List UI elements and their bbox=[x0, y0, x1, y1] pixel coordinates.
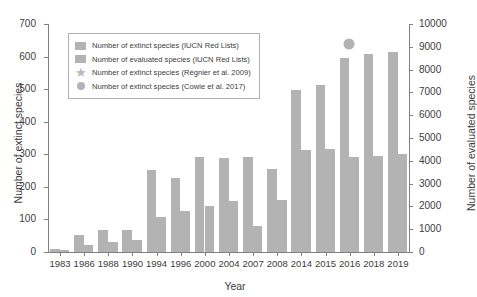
bar bbox=[156, 217, 166, 252]
y-axis-right-tick-label: 4000 bbox=[419, 155, 464, 166]
legend-label: Number of extinct species (Cowie et al. … bbox=[92, 82, 245, 91]
y-axis-right-tick-label: 1000 bbox=[419, 223, 464, 234]
y-axis-right-tick bbox=[409, 184, 413, 185]
y-axis-right-tick-label: 7000 bbox=[419, 86, 464, 97]
y-axis-right-tick-label: 6000 bbox=[419, 109, 464, 120]
x-axis-tick bbox=[350, 252, 351, 256]
y-axis-left-tick bbox=[44, 252, 48, 253]
y-axis-left-tick bbox=[44, 57, 48, 58]
bar bbox=[132, 240, 142, 252]
y-axis-right-tick bbox=[409, 138, 413, 139]
y-axis-right-title: Number of evaluated species bbox=[465, 58, 477, 228]
y-axis-right-tick bbox=[409, 206, 413, 207]
bar bbox=[171, 178, 181, 252]
y-axis-left-tick bbox=[44, 122, 48, 123]
x-axis-tick bbox=[253, 252, 254, 256]
bar bbox=[195, 157, 205, 252]
bar bbox=[398, 154, 408, 252]
legend-circle-icon bbox=[75, 82, 86, 90]
circle-marker bbox=[344, 39, 355, 50]
y-axis-right-tick-label: 10000 bbox=[419, 18, 464, 29]
bar bbox=[60, 250, 70, 253]
y-axis-left-tick bbox=[44, 89, 48, 90]
y-axis-right-tick bbox=[409, 161, 413, 162]
legend-label: Number of evaluated species (IUCN Red Li… bbox=[92, 55, 250, 64]
y-axis-left-tick bbox=[44, 24, 48, 25]
bar bbox=[122, 230, 132, 252]
bar bbox=[291, 90, 301, 252]
y-axis-left-tick bbox=[44, 187, 48, 188]
bar bbox=[229, 201, 239, 252]
x-axis-tick bbox=[205, 252, 206, 256]
bar bbox=[219, 158, 229, 252]
bar bbox=[301, 150, 311, 252]
bar bbox=[388, 52, 398, 252]
y-axis-left-tick-label: 700 bbox=[0, 18, 36, 29]
bar bbox=[349, 157, 359, 252]
bar bbox=[74, 235, 84, 252]
legend-square-icon bbox=[75, 55, 86, 63]
y-axis-left-tick-label: 300 bbox=[0, 148, 36, 159]
x-axis-tick-label: 2019 bbox=[378, 258, 418, 269]
y-axis-left-tick-label: 600 bbox=[0, 51, 36, 62]
legend-label: Number of extinct species (Régnier et al… bbox=[92, 68, 251, 77]
bar bbox=[243, 157, 253, 252]
bar bbox=[50, 249, 60, 252]
y-axis-right-tick bbox=[409, 70, 413, 71]
y-axis-right-tick bbox=[409, 252, 413, 253]
y-axis-right-tick bbox=[409, 24, 413, 25]
x-axis-tick bbox=[326, 252, 327, 256]
y-axis-right-tick bbox=[409, 92, 413, 93]
y-axis-right-tick-label: 2000 bbox=[419, 200, 464, 211]
legend-label: Number of extinct species (IUCN Red List… bbox=[92, 41, 239, 50]
y-axis-right-tick bbox=[409, 229, 413, 230]
bar bbox=[84, 245, 94, 252]
y-axis-right-tick-label: 9000 bbox=[419, 41, 464, 52]
bar bbox=[316, 85, 326, 252]
bar bbox=[373, 156, 383, 252]
legend-item: ★Number of extinct species (Régnier et a… bbox=[75, 66, 251, 80]
x-axis-tick bbox=[84, 252, 85, 256]
legend-item: Number of evaluated species (IUCN Red Li… bbox=[75, 53, 251, 67]
y-axis-right-tick-label: 8000 bbox=[419, 64, 464, 75]
legend-star-icon: ★ bbox=[75, 69, 86, 77]
x-axis-tick bbox=[229, 252, 230, 256]
bar bbox=[180, 211, 190, 252]
bar bbox=[277, 200, 287, 252]
y-axis-right-tick bbox=[409, 115, 413, 116]
x-axis-tick bbox=[108, 252, 109, 256]
legend-square-icon bbox=[75, 42, 86, 50]
y-axis-left-spine bbox=[48, 24, 49, 253]
legend-item: Number of extinct species (IUCN Red List… bbox=[75, 39, 251, 53]
bar bbox=[267, 169, 277, 252]
x-axis-tick bbox=[132, 252, 133, 256]
x-axis-tick bbox=[181, 252, 182, 256]
y-axis-right-tick-label: 0 bbox=[419, 246, 464, 257]
x-axis-tick bbox=[277, 252, 278, 256]
chart-legend: Number of extinct species (IUCN Red List… bbox=[68, 33, 260, 99]
y-axis-left-tick-label: 100 bbox=[0, 213, 36, 224]
bar bbox=[364, 54, 374, 252]
y-axis-right-tick-label: 5000 bbox=[419, 132, 464, 143]
x-axis-tick bbox=[374, 252, 375, 256]
bar bbox=[98, 230, 108, 252]
bar bbox=[108, 242, 118, 252]
y-axis-left-tick bbox=[44, 154, 48, 155]
y-axis-right-tick-label: 3000 bbox=[419, 178, 464, 189]
x-axis-tick bbox=[60, 252, 61, 256]
bar bbox=[205, 206, 215, 253]
y-axis-left-tick bbox=[44, 219, 48, 220]
bar bbox=[253, 226, 263, 252]
y-axis-left-tick-label: 200 bbox=[0, 181, 36, 192]
y-axis-left-tick-label: 0 bbox=[0, 246, 36, 257]
bar bbox=[340, 58, 350, 252]
x-axis-title: Year bbox=[0, 280, 470, 292]
x-axis-tick bbox=[398, 252, 399, 256]
bar bbox=[147, 170, 157, 252]
y-axis-right-tick bbox=[409, 47, 413, 48]
x-axis-tick bbox=[301, 252, 302, 256]
legend-item: Number of extinct species (Cowie et al. … bbox=[75, 80, 251, 94]
bar bbox=[325, 149, 335, 252]
x-axis-tick bbox=[157, 252, 158, 256]
